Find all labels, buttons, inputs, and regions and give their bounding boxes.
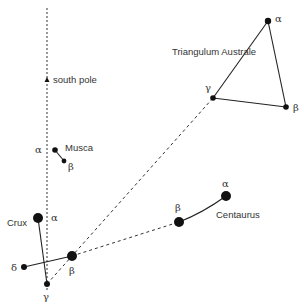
crux-delta-label: δ [11,262,17,273]
triangulum-beta-label: β [293,102,299,113]
crux-gamma-star [44,281,50,287]
diagram-canvas: south pole Triangulum Australe Musca Cru… [0,0,304,307]
triangulum-edge [268,21,286,107]
triangulum-beta-star [283,104,289,110]
south-pole-triangle-icon [45,77,50,82]
musca-alpha-label: α [35,144,42,155]
pointer-line-to-centaurus [72,222,179,256]
triangulum-alpha-label: α [275,13,282,24]
crux-alpha-star [33,213,43,223]
triangulum-edge [213,98,286,107]
crux-gamma-label: γ [43,291,49,302]
crux-beta-delta-line [24,256,72,267]
triangulum-edge [213,21,268,98]
musca-beta-label: β [68,161,74,172]
crux-alpha-gamma-line [38,218,47,284]
musca-alpha-star [52,147,58,153]
triangulum-name-label: Triangulum Australe [172,46,256,57]
centaurus-beta-star [174,217,184,227]
triangulum-gamma-star [210,95,216,101]
centaurus-alpha-label: α [222,178,229,189]
crux-alpha-label: α [51,212,58,223]
centaurus-name-label: Centaurus [216,209,260,220]
south-pole-label: south pole [53,74,97,85]
centaurus-beta-label: β [175,202,181,213]
centaurus-alpha-star [221,191,231,201]
triangulum-gamma-label: γ [205,82,211,93]
crux-beta-label: β [69,265,75,276]
triangulum-lines [213,21,286,107]
triangulum-alpha-star [265,18,271,24]
crux-beta-star [67,251,77,261]
crux-delta-star [21,264,27,270]
musca-beta-star [62,159,67,164]
musca-name-label: Musca [65,142,94,153]
crux-name-label: Crux [7,217,27,228]
star-finder-diagram: south pole Triangulum Australe Musca Cru… [0,0,304,307]
